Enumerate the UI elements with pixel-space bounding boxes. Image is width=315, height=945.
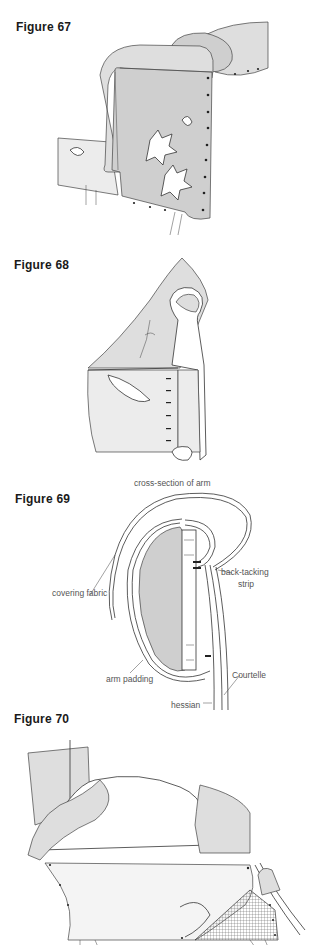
figure-69-illustration <box>0 475 315 735</box>
figure-68-title: Figure 68 <box>14 258 69 272</box>
figure-68-illustration <box>0 0 315 240</box>
figure-70-illustration <box>0 725 315 945</box>
figure-70-title: Figure 70 <box>14 712 69 726</box>
